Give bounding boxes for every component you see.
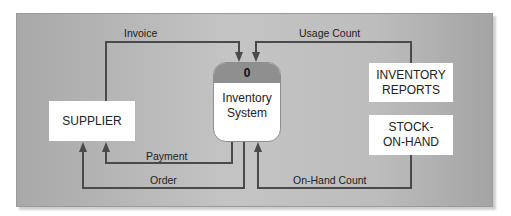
inventory-reports-label-line1: INVENTORY xyxy=(376,68,446,83)
process-number: 0 xyxy=(214,63,280,83)
usage-count-flow xyxy=(256,42,411,63)
process-name-line1: Inventory xyxy=(214,91,280,106)
stock-on-hand-entity: STOCK- ON-HAND xyxy=(369,115,453,155)
payment-label: Payment xyxy=(146,150,187,162)
inventory-reports-label-line2: REPORTS xyxy=(382,83,440,98)
process-name: Inventory System xyxy=(214,83,280,121)
invoice-label: Invoice xyxy=(124,27,157,39)
process-name-line2: System xyxy=(214,106,280,121)
order-label: Order xyxy=(150,174,177,186)
stock-on-hand-label-line2: ON-HAND xyxy=(383,135,439,150)
on-hand-count-label: On-Hand Count xyxy=(293,174,367,186)
supplier-label: SUPPLIER xyxy=(62,114,121,129)
inventory-system-process: 0 Inventory System xyxy=(213,62,281,142)
stock-on-hand-label-line1: STOCK- xyxy=(388,120,433,135)
usage-count-label: Usage Count xyxy=(299,27,360,39)
inventory-reports-entity: INVENTORY REPORTS xyxy=(369,63,453,102)
supplier-entity: SUPPLIER xyxy=(49,101,135,141)
